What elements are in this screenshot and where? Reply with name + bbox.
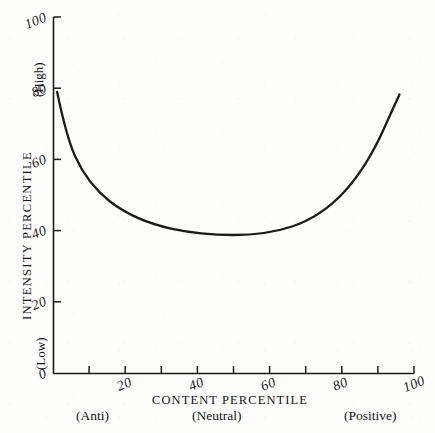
data-curve-intensity (57, 92, 399, 235)
y-axis-title: INTENSITY PERCENTILE (20, 151, 35, 320)
y-annotation-high: (High) (31, 62, 47, 97)
x-annotation-neutral: (Neutral) (192, 408, 241, 424)
x-annotation-anti: (Anti) (76, 408, 109, 424)
x-axis-ticks (89, 366, 414, 374)
x-axis-title: CONTENT PERCENTILE (152, 393, 308, 408)
chart-canvas (0, 0, 435, 433)
y-annotation-low: (Low) (33, 338, 49, 371)
chart-figure: 100 80 60 40 20 0 20 40 60 80 100 INTENS… (0, 0, 435, 433)
x-annotation-positive: (Positive) (344, 408, 397, 424)
y-axis-ticks (54, 17, 62, 302)
